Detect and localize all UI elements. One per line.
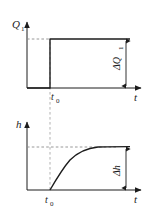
lower-t0-tick-label: t 0: [45, 194, 54, 208]
upper-x-axis-label: t: [134, 91, 138, 103]
upper-y-axis-label: Q 1: [12, 18, 25, 33]
lower-delta-label-base: Δh: [111, 165, 122, 177]
lower-x-axis-label: t: [134, 193, 138, 205]
lower-y-axis-label-base: h: [16, 118, 22, 130]
upper-t0-tick-label: t 0: [51, 91, 60, 105]
upper-delta-label: ΔQ 1: [111, 46, 125, 71]
lower-t0-tick-base: t: [45, 194, 48, 205]
upper-y-axis-label-sub: 1: [21, 25, 25, 33]
lower-t0-tick-sub: 0: [50, 200, 54, 208]
step-response-figure: Q 1 t ΔQ 1 t 0: [0, 0, 157, 219]
upper-y-axis-label-base: Q: [12, 18, 20, 30]
upper-t0-tick-sub: 0: [56, 97, 60, 105]
chart-level-response: h t Δh t 0: [16, 118, 141, 208]
lower-delta-label: Δh: [111, 165, 122, 177]
lower-y-axis-label: h: [16, 118, 22, 130]
chart-flow-step: Q 1 t ΔQ 1 t 0: [12, 18, 141, 105]
upper-delta-label-sub: 1: [117, 46, 125, 50]
upper-t0-tick-base: t: [51, 91, 54, 102]
figure-canvas: Q 1 t ΔQ 1 t 0: [0, 0, 157, 219]
upper-delta-label-base: ΔQ: [111, 56, 122, 71]
